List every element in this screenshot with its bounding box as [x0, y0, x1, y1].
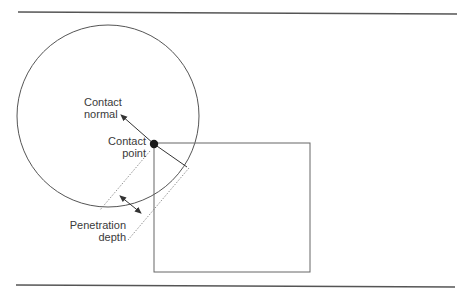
penetration-depth-label: Penetration: [70, 219, 126, 231]
box-outline: [154, 143, 310, 272]
penetration-depth-arrow: [120, 196, 141, 213]
contact-normal-label-line2: normal: [84, 108, 118, 120]
collision-diagram: Contact normal Contact point Penetration…: [0, 0, 472, 299]
bottom-rule: [16, 285, 455, 287]
top-rule: [18, 12, 457, 14]
dotted-guide-1: [100, 151, 150, 210]
contact-point-label-line2: point: [122, 147, 146, 159]
penetration-line: [154, 144, 187, 167]
contact-point-label: Contact: [108, 135, 146, 147]
dotted-guide-2: [128, 168, 189, 240]
penetration-depth-label-line2: depth: [98, 231, 126, 243]
contact-point-dot: [150, 140, 158, 148]
contact-normal-label: Contact: [84, 96, 122, 108]
